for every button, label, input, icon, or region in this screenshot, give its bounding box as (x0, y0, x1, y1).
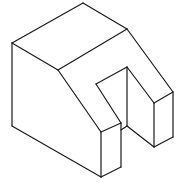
edge-top-back-right (83, 3, 127, 29)
edge-slot-right-slope (127, 67, 154, 103)
block-with-slot-figure (0, 0, 187, 186)
edge-slot-left-slope (96, 84, 121, 123)
edge-right-prong-bottom (154, 137, 173, 147)
edge-top-ridge (58, 29, 127, 70)
edge-slot-floor-right (127, 126, 154, 147)
edge-bottom-left (12, 126, 101, 177)
edge-slope-right (127, 29, 173, 92)
edge-front-prong-bottom (101, 167, 121, 177)
edge-front-prong-top (101, 123, 121, 132)
edge-slope-left (58, 70, 101, 132)
edge-top-front-left (12, 43, 58, 70)
edge-top-back-left (12, 3, 83, 43)
edge-slot-floor-left (121, 126, 127, 130)
edge-right-prong-top (154, 92, 173, 103)
edge-slot-back-top (96, 67, 127, 84)
isometric-drawing (0, 0, 187, 186)
